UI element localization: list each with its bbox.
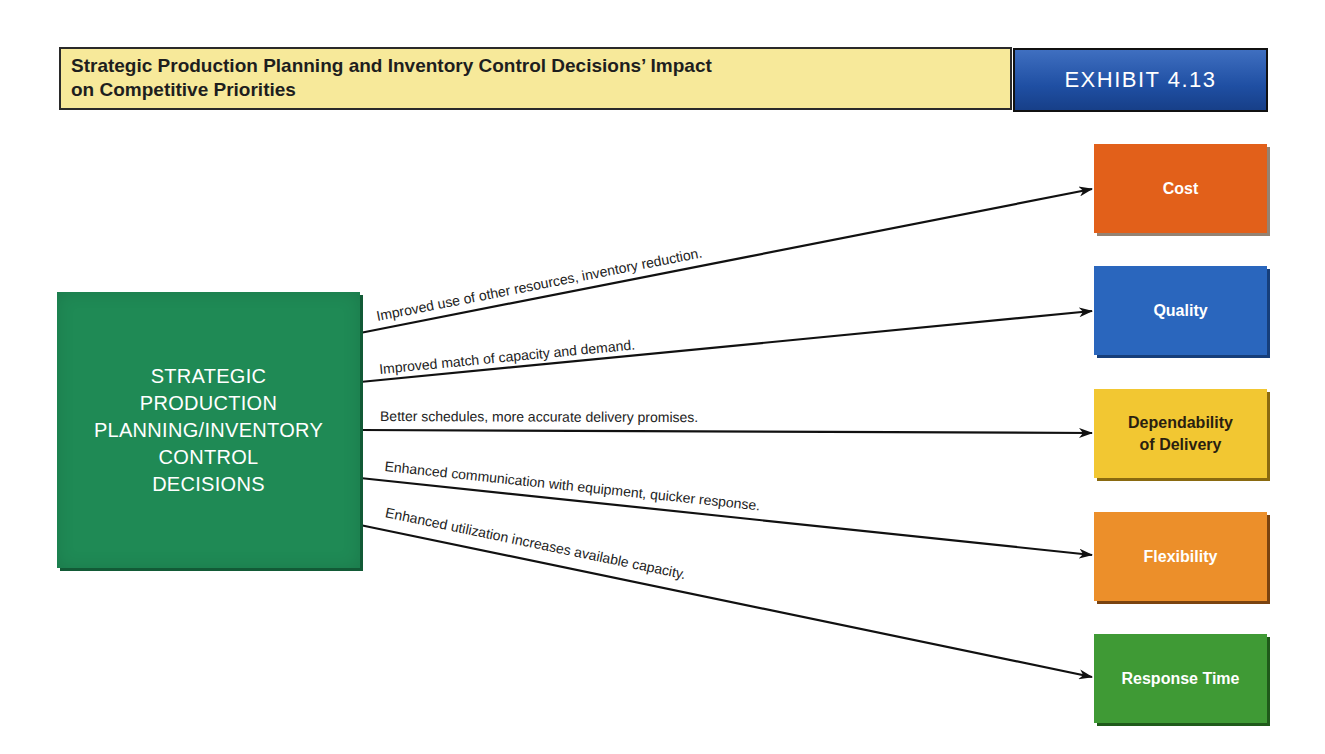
target-node-dependability: Dependability of Delivery	[1094, 389, 1267, 478]
arrow-to-dependability	[360, 430, 1092, 433]
source-node-strategic-decisions: STRATEGIC PRODUCTION PLANNING/INVENTORY …	[57, 292, 360, 568]
target-label-dependability: Dependability of Delivery	[1128, 412, 1233, 456]
target-node-flexibility: Flexibility	[1094, 512, 1267, 601]
target-label-flexibility: Flexibility	[1144, 546, 1218, 568]
target-node-quality: Quality	[1094, 266, 1267, 355]
edge-label-dependability: Better schedules, more accurate delivery…	[380, 408, 698, 425]
arrow-to-response-time	[360, 525, 1092, 677]
target-node-cost: Cost	[1094, 144, 1267, 233]
arrow-to-cost	[360, 189, 1092, 333]
target-label-response-time: Response Time	[1122, 668, 1240, 690]
target-label-quality: Quality	[1153, 300, 1207, 322]
target-label-cost: Cost	[1163, 178, 1199, 200]
arrow-to-flexibility	[360, 478, 1092, 555]
source-node-label: STRATEGIC PRODUCTION PLANNING/INVENTORY …	[94, 363, 323, 498]
target-node-response-time: Response Time	[1094, 634, 1267, 723]
arrow-to-quality	[360, 311, 1092, 382]
